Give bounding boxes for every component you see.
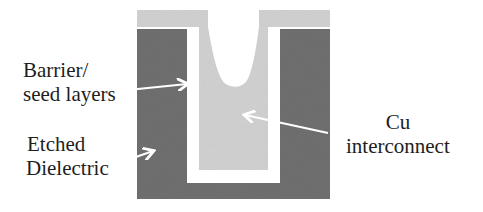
label-cu-line1: Cu <box>346 110 450 134</box>
copper-overburden-right <box>259 10 330 27</box>
label-etched-line2: Dielectric <box>26 156 109 180</box>
copper-overburden-wall-left <box>199 10 208 30</box>
damascene-cross-section-diagram <box>0 0 483 212</box>
copper-overburden <box>137 10 330 27</box>
label-barrier-seed-layers: Barrier/ seed layers <box>23 58 116 106</box>
label-barrier-line1: Barrier/ <box>23 58 116 82</box>
copper-overburden-left <box>137 10 208 27</box>
label-etched-line1: Etched <box>27 132 109 156</box>
copper-fill <box>199 27 268 170</box>
label-barrier-line2: seed layers <box>23 82 116 106</box>
copper-overburden-wall-right <box>259 10 268 30</box>
label-cu-interconnect: Cu interconnect <box>346 110 450 158</box>
label-cu-line2: interconnect <box>346 134 450 158</box>
label-etched-dielectric: Etched Dielectric <box>27 132 109 180</box>
barrier-seed-top-left <box>187 27 199 30</box>
barrier-seed-top-right <box>268 27 280 30</box>
